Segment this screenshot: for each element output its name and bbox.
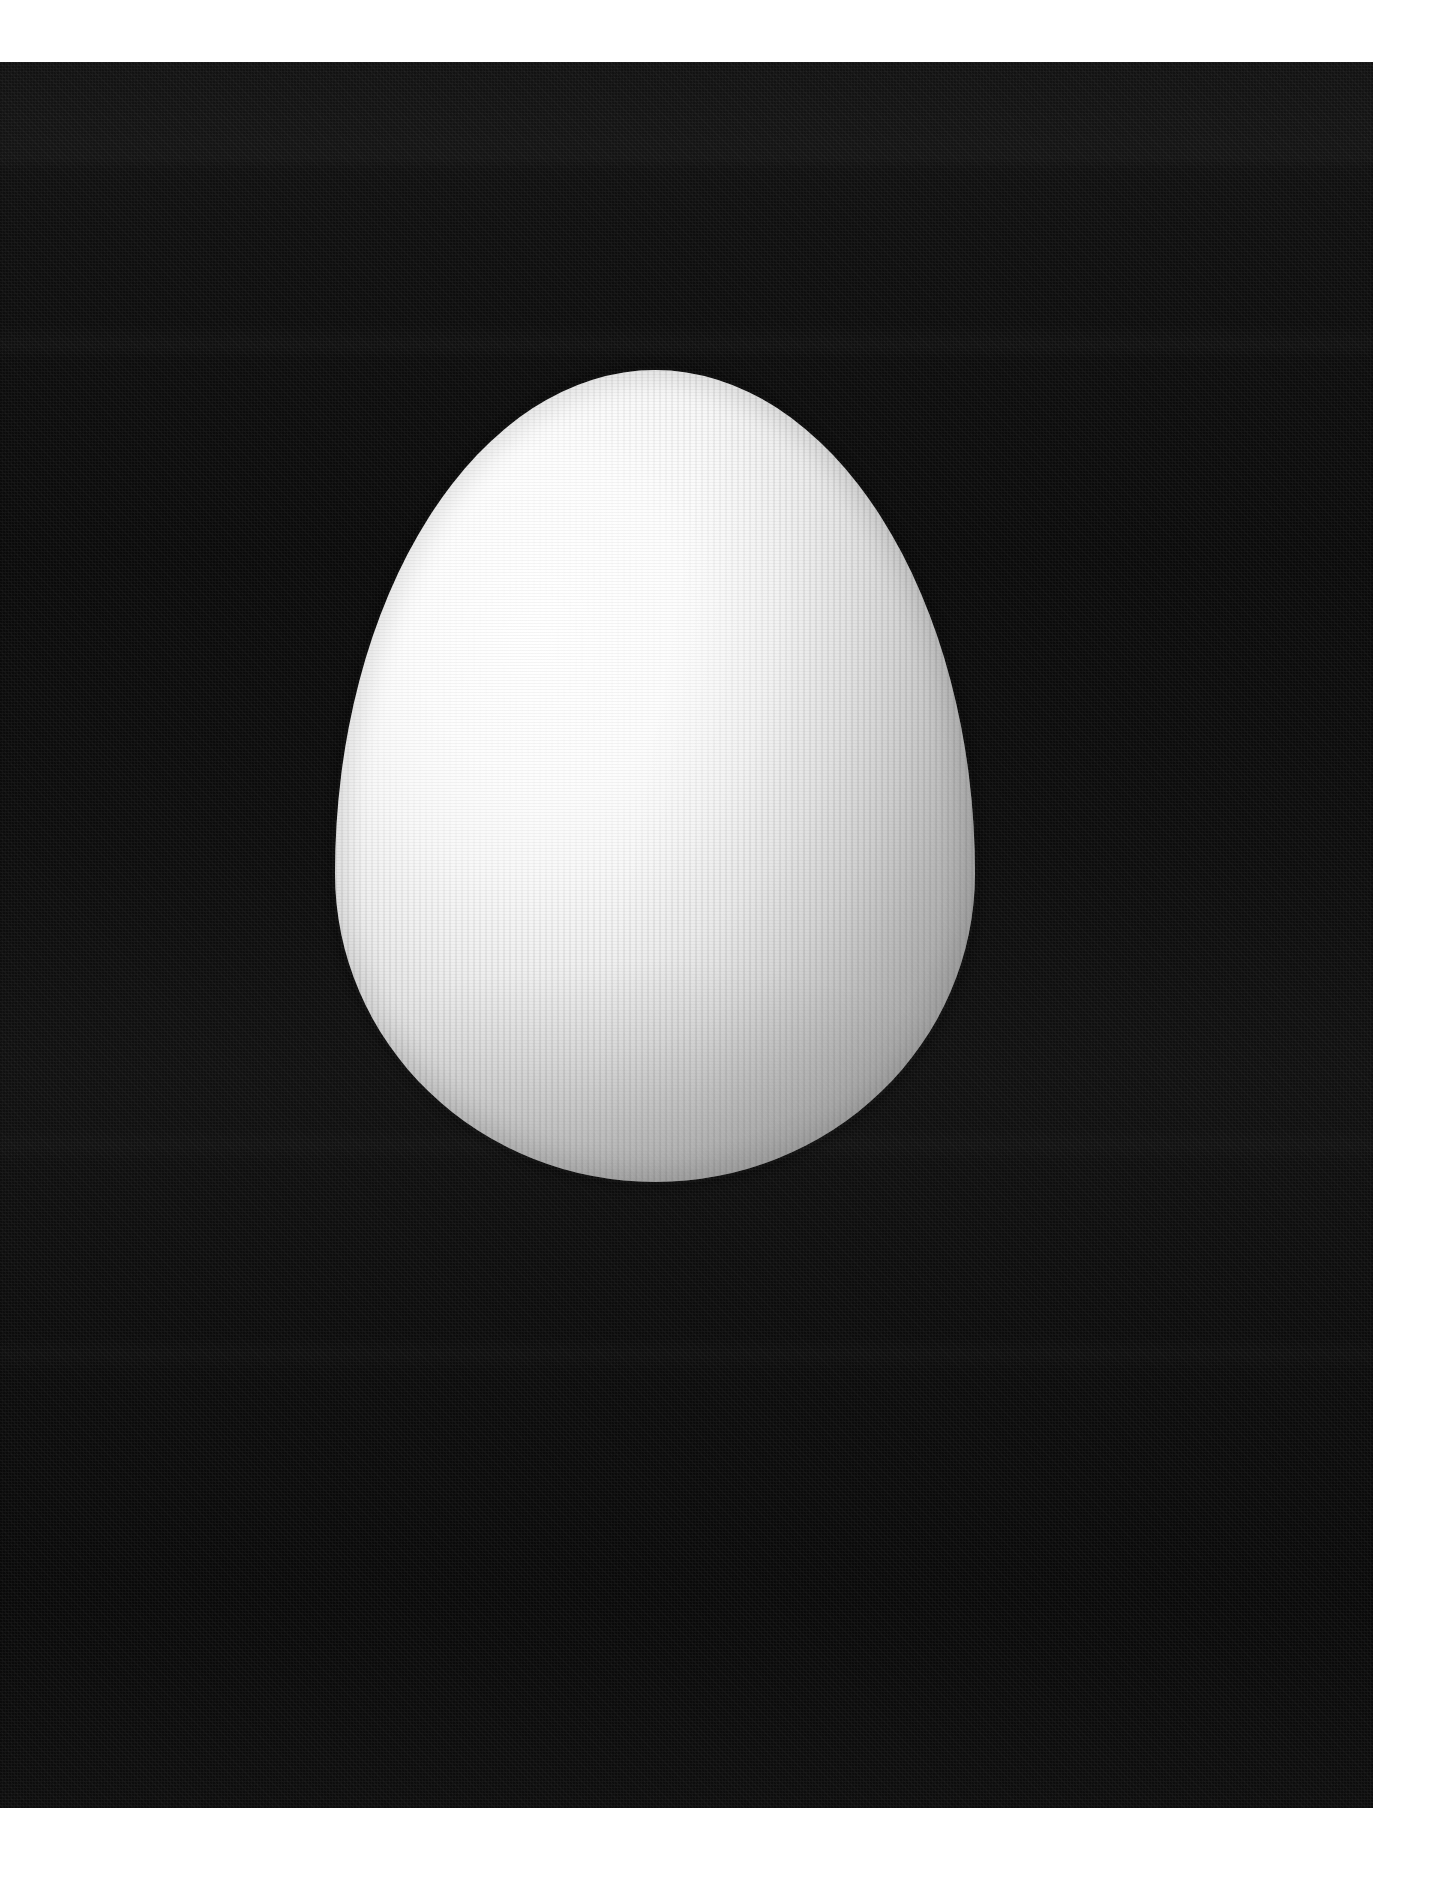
page-canvas <box>0 0 1429 1886</box>
photograph <box>0 62 1373 1808</box>
egg-subject <box>335 370 975 1182</box>
egg-edge-falloff <box>335 370 975 1182</box>
top-paper-margin <box>0 0 1429 62</box>
bottom-paper-margin <box>0 1808 1429 1886</box>
right-paper-margin <box>1373 0 1429 1886</box>
